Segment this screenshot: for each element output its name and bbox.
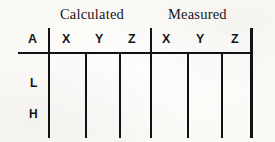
table-cell: [51, 97, 84, 137]
table-cell: [87, 97, 118, 137]
column-header-calculated-x: X: [62, 32, 70, 46]
column-header-measured-z: Z: [231, 32, 239, 46]
group-header-measured: Measured: [168, 7, 227, 22]
column-header-calculated-z: Z: [128, 32, 136, 46]
column-header-measured-y: Y: [196, 32, 204, 46]
table-cell: [153, 97, 186, 137]
corner-header-a: A: [28, 32, 37, 46]
table-cell: [153, 55, 186, 95]
group-header-calculated: Calculated: [60, 7, 124, 22]
table-cell: [51, 55, 84, 95]
column-header-calculated-y: Y: [95, 32, 103, 46]
table-cell: [223, 97, 249, 137]
table-cell: [87, 55, 118, 95]
table-cell: [189, 97, 220, 137]
scanned-table-figure: Calculated Measured A X Y Z X Y Z L H: [0, 0, 275, 142]
column-header-measured-x: X: [162, 32, 170, 46]
row-label-h: H: [29, 107, 38, 120]
table-cell: [223, 55, 249, 95]
table-cell: [121, 55, 149, 95]
table-cell: [121, 97, 149, 137]
row-label-l: L: [30, 76, 37, 89]
vertical-rule-right-boundary: [250, 28, 253, 138]
table-cell: [189, 55, 220, 95]
